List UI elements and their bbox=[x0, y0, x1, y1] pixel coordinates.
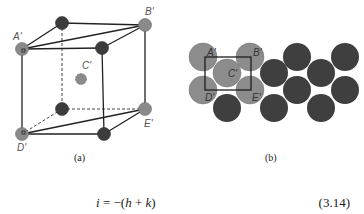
atom-dark-back-bottom-left bbox=[56, 103, 69, 116]
atom-E-prime bbox=[139, 103, 152, 116]
equation-equals: = −( bbox=[100, 195, 126, 210]
label-A-prime-b: A' bbox=[206, 47, 217, 58]
edge-top-back bbox=[62, 23, 145, 25]
diagonal-bottom-face bbox=[22, 109, 145, 134]
atom-dark bbox=[213, 94, 241, 122]
atom-B-prime bbox=[139, 19, 152, 32]
equation-plus: + bbox=[132, 195, 146, 210]
label-C-prime-b: C' bbox=[228, 68, 238, 79]
edge-top-right bbox=[102, 25, 145, 48]
atom-dark-back-top-left bbox=[56, 17, 69, 30]
atom-dark bbox=[307, 94, 335, 122]
atom-dark-front-bottom-right bbox=[98, 128, 111, 141]
atom-dark bbox=[283, 43, 311, 71]
caption-b: (b) bbox=[265, 152, 277, 164]
label-B-prime-b: B' bbox=[253, 47, 263, 58]
label-D-prime-b: D' bbox=[205, 92, 215, 103]
label-B-prime: B' bbox=[145, 6, 155, 17]
atom-dark bbox=[260, 59, 288, 87]
label-E-prime-b: E' bbox=[252, 92, 262, 103]
figure-canvas: A' B' C' D' E' (a) A' B' C' D' E' (b) bbox=[0, 0, 364, 214]
atom-dark bbox=[307, 59, 335, 87]
label-A-prime: A' bbox=[12, 31, 23, 42]
atom-dark bbox=[331, 43, 359, 71]
edge-top-front bbox=[22, 48, 102, 49]
label-E-prime: E' bbox=[144, 118, 154, 129]
cube-diagram: A' B' C' D' E' (a) bbox=[12, 6, 155, 164]
equation: i = −(h + k) bbox=[96, 195, 156, 211]
close-packed-layer-diagram: A' B' C' D' E' (b) bbox=[189, 43, 359, 164]
caption-a: (a) bbox=[74, 152, 85, 164]
atom-dark bbox=[331, 76, 359, 104]
label-D-prime: D' bbox=[17, 142, 27, 153]
atom-C-prime bbox=[76, 74, 87, 85]
equation-number: (3.14) bbox=[319, 195, 350, 211]
atom-dark bbox=[283, 76, 311, 104]
atom-dark-front-top-right bbox=[96, 42, 109, 55]
atom-dark bbox=[260, 94, 288, 122]
equation-close: ) bbox=[151, 195, 155, 210]
edge-front-right bbox=[102, 48, 104, 134]
label-C-prime: C' bbox=[82, 60, 92, 71]
